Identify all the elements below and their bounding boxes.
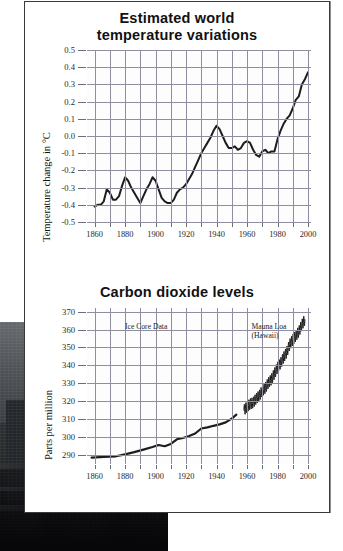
x-axis-tick [247,223,248,227]
y-axis-tick [78,205,86,206]
x-axis-tick [171,465,172,469]
x-axis-tick [278,465,279,469]
x-axis-tick [308,465,309,469]
page-root: Estimated world temperature variations T… [0,0,343,551]
gridline-vertical [232,50,233,222]
x-axis-tick-label: 2000 [290,230,326,239]
x-axis-tick [217,223,218,227]
x-axis-tick [308,223,309,227]
gridline-vertical [140,308,141,464]
y-axis-tick-label: 330 [41,378,75,388]
gridline-vertical [278,50,279,222]
chart-title: Carbon dioxide levels [25,284,329,301]
chart-annotation: Mauna Loa [252,323,287,332]
y-axis-tick-label: -0.3 [41,183,75,193]
gridline-vertical [95,308,96,464]
y-axis-tick [78,419,86,420]
chart-annotation: (Hawaii) [252,332,279,341]
x-axis-tick [262,223,263,227]
x-axis-tick [278,223,279,227]
gridline-vertical [156,50,157,222]
y-axis-tick [78,84,86,85]
x-axis-tick [186,465,187,469]
x-axis-tick [293,223,294,227]
y-axis-tick [78,312,86,313]
y-axis-tick [78,401,86,402]
x-axis-tick [201,465,202,469]
gridline-vertical [201,50,202,222]
y-axis-tick [78,50,86,51]
x-axis-tick [95,465,96,469]
gridline-vertical [201,308,202,464]
y-axis-tick [78,153,86,154]
y-axis-tick-label: 290 [41,450,75,460]
gridline-vertical [308,50,309,222]
chart-title: Estimated world temperature variations [25,10,329,44]
chart-title-line2: temperature variations [25,27,329,44]
gridline-vertical [140,50,141,222]
y-axis-tick-label: 300 [41,432,75,442]
y-axis-tick [78,383,86,384]
y-axis-tick [78,102,86,103]
y-axis-tick-label: 320 [41,396,75,406]
x-axis-tick [262,465,263,469]
gridline-vertical [262,50,263,222]
x-axis-tick [293,465,294,469]
gridline-vertical [171,50,172,222]
y-axis-tick [78,365,86,366]
gridline-vertical [125,50,126,222]
gridline-vertical [156,308,157,464]
y-axis-tick [78,170,86,171]
y-axis-tick-label: 340 [41,360,75,370]
y-axis-tick [78,330,86,331]
x-axis-tick-label: 2000 [290,472,326,481]
x-axis-tick [156,223,157,227]
y-axis-tick-label: 0.2 [41,97,75,107]
gridline-vertical [171,308,172,464]
x-axis-tick [156,465,157,469]
gridline-vertical [186,50,187,222]
y-axis-tick-label: 0.0 [41,131,75,141]
gridline-vertical [110,50,111,222]
x-axis-tick [232,223,233,227]
y-axis-tick [78,222,86,223]
y-axis-tick [78,437,86,438]
y-axis-tick-label: 0.4 [41,62,75,72]
y-axis-tick-label: 360 [41,325,75,335]
y-axis-tick-label: -0.4 [41,200,75,210]
x-axis-tick [201,223,202,227]
y-axis-tick [78,67,86,68]
y-axis-tick [78,347,86,348]
x-axis-tick [171,223,172,227]
gridline-vertical [293,50,294,222]
y-axis-tick [78,455,86,456]
gridline-vertical [110,308,111,464]
y-axis-tick [78,136,86,137]
temperature-chart: Estimated world temperature variations T… [25,6,329,268]
x-axis-tick [110,465,111,469]
co2-chart: Carbon dioxide levels Parts per million … [25,284,329,512]
temperature-plot-wrap: Temperature change in °C 0.50.40.30.20.1… [25,46,331,264]
co2-plot-wrap: Parts per million 3703603503403303203103… [25,304,331,504]
temperature-plot-area [87,50,311,222]
x-axis-tick [247,465,248,469]
page-panel: Estimated world temperature variations T… [24,1,330,513]
x-axis-tick [140,223,141,227]
gridline-vertical [217,50,218,222]
gridline-vertical [232,308,233,464]
gridline-vertical [186,308,187,464]
y-axis-tick-label: 310 [41,414,75,424]
chart-title-line1: Estimated world [25,10,329,27]
gridline-vertical [95,50,96,222]
gridline-vertical [308,308,309,464]
x-axis-tick [110,223,111,227]
gridline-vertical [217,308,218,464]
x-axis-tick [186,223,187,227]
y-axis-tick-label: 350 [41,342,75,352]
chart-annotation: Ice Core Data [125,323,167,332]
y-axis-tick-label: 370 [41,307,75,317]
gridline-vertical [125,308,126,464]
y-axis-tick-label: -0.2 [41,165,75,175]
gridline-vertical [247,308,248,464]
x-axis-tick [95,223,96,227]
